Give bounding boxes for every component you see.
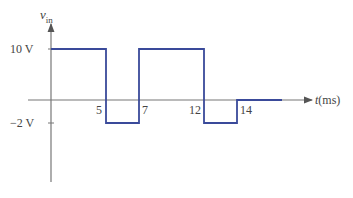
x-tick-label-7: 7 — [142, 104, 148, 116]
x-tick-label-5: 5 — [96, 104, 102, 116]
y-tick-label-10v: 10 V — [10, 43, 33, 55]
y-axis-label: vin — [40, 8, 53, 25]
x-unit-text: ms — [322, 93, 336, 107]
waveform-chart — [0, 0, 353, 198]
y-tick-label-neg2v: −2 V — [10, 117, 34, 129]
x-axis-unit: (ms) — [318, 93, 340, 107]
x-tick-label-14: 14 — [240, 104, 252, 116]
y-label-sub: in — [46, 15, 53, 25]
x-axis-label: t(ms) — [315, 94, 340, 106]
x-tick-label-12: 12 — [189, 104, 201, 116]
